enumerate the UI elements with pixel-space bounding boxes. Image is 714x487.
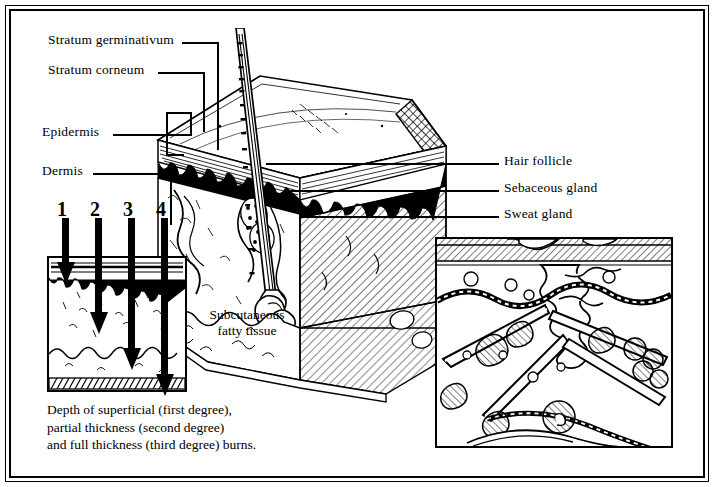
leader-stratum-germinativum-h bbox=[182, 42, 219, 44]
burn-caption-line-3: and full thickness (third degree) burns. bbox=[47, 436, 256, 454]
leader-epidermis-h bbox=[113, 134, 192, 136]
label-hair-follicle: Hair follicle bbox=[504, 153, 572, 169]
burn-arrow-1 bbox=[56, 218, 76, 284]
leader-epidermis-v bbox=[190, 112, 192, 134]
inset-detail-panel bbox=[435, 237, 673, 448]
label-subcutaneous-line2: fatty tissue bbox=[192, 323, 302, 339]
label-stratum-germinativum: Stratum germinativum bbox=[48, 32, 174, 48]
label-subcutaneous-line1: Subcutaneous bbox=[192, 307, 302, 323]
burn-caption-line-2: partial thickness (second degree) bbox=[47, 419, 256, 437]
inset-histology-drawing bbox=[437, 239, 671, 446]
burn-caption-line-1: Depth of superficial (first degree), bbox=[47, 401, 256, 419]
leader-dermis-h bbox=[93, 173, 171, 175]
burn-arrow-3 bbox=[122, 218, 142, 370]
leader-epidermis-tick-v bbox=[166, 112, 168, 156]
label-dermis: Dermis bbox=[42, 163, 83, 179]
label-sweat-gland: Sweat gland bbox=[504, 206, 573, 222]
skin-block-illustration bbox=[150, 28, 450, 418]
leader-hair-follicle bbox=[266, 163, 499, 165]
burn-arrow-4 bbox=[155, 218, 175, 396]
leader-stratum-corneum-v bbox=[203, 72, 205, 132]
leader-stratum-germinativum-v bbox=[217, 42, 219, 150]
leader-stratum-corneum-h bbox=[158, 72, 205, 74]
label-stratum-corneum: Stratum corneum bbox=[48, 62, 144, 78]
burn-caption: Depth of superficial (first degree), par… bbox=[47, 401, 256, 454]
leader-epidermis-tick bbox=[166, 112, 192, 114]
burn-arrow-2 bbox=[89, 218, 109, 334]
figure-canvas: Stratum germinativum Stratum corneum Epi… bbox=[0, 0, 714, 487]
label-sebaceous-gland: Sebaceous gland bbox=[504, 180, 597, 196]
label-epidermis: Epidermis bbox=[42, 124, 99, 140]
label-subcutaneous-fatty-tissue: Subcutaneous fatty tissue bbox=[192, 307, 302, 339]
leader-epidermis-tick-b bbox=[166, 154, 184, 156]
leader-sweat-gland bbox=[300, 216, 499, 218]
leader-sebaceous-gland bbox=[290, 190, 499, 192]
